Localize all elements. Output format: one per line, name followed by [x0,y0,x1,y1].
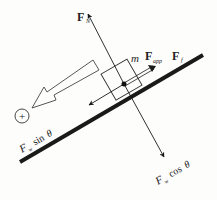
weight-perpendicular-arrow [124,84,164,157]
applied-force-arrow [124,65,156,86]
normal-force-label: F [77,10,84,24]
svg-text:θ: θ [44,127,54,139]
incline-surface [20,55,203,162]
friction-force-label: F [172,49,179,63]
mass-label: m [131,52,139,64]
applied-force-label: F [145,49,152,63]
weight-perpendicular-label: F w cos θ [152,157,193,189]
motion-direction-hollow-arrow [32,60,99,108]
positive-direction-symbol: + [19,110,25,122]
svg-text:θ: θ [182,158,192,170]
svg-text:sin: sin [30,132,46,147]
friction-force-arrow [89,84,124,105]
inclined-plane-force-diagram: + F N m F app F f F w sin θ F w cos θ [0,0,217,200]
diagram-svg: + F N m F app F f F w sin θ F w cos θ [0,0,217,200]
svg-text:w: w [27,146,33,153]
applied-force-subscript: app [153,58,162,64]
center-of-mass-dot [122,82,127,87]
svg-text:w: w [163,178,169,185]
friction-force-subscript: f [181,57,184,63]
svg-text:cos: cos [166,163,183,179]
